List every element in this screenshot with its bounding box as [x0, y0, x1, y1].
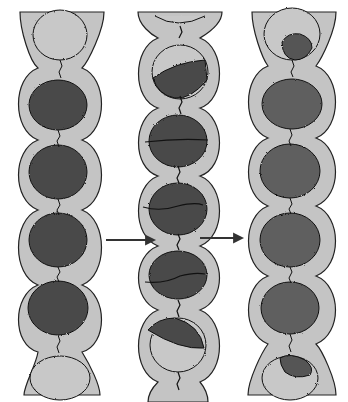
middle-chain	[138, 12, 222, 402]
dark-cell	[29, 80, 87, 130]
dark-cell	[29, 213, 87, 267]
cell-chain-diagram	[0, 0, 348, 402]
dark-cell	[28, 281, 88, 335]
left-chain	[19, 10, 105, 400]
textured-cell	[261, 282, 319, 334]
textured-cell	[260, 213, 320, 267]
dark-cell	[29, 145, 87, 199]
right-chain	[248, 8, 336, 400]
arrow-icon	[106, 236, 154, 244]
textured-cell	[262, 79, 322, 129]
textured-cell	[260, 144, 320, 198]
